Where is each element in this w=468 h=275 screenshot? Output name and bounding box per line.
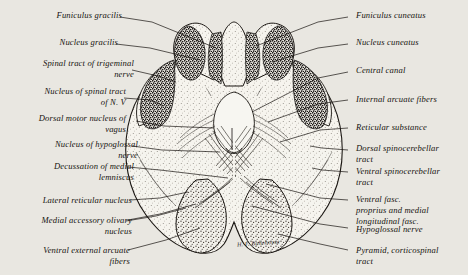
label-ventral-fasc-proprius: Ventral fasc. proprius and medial longit… [356,194,468,227]
label-dorsal-spinocerebellar-tract: Dorsal spinocerebellar tract [356,143,468,165]
label-nucleus-gracilis: Nucleus gracilis [0,37,118,48]
label-central-canal: Central canal [356,65,468,76]
label-internal-arcuate-fibers: Internal arcuate fibers [356,94,468,105]
label-lateral-reticular-nucleus: Lateral reticular nucleus [0,195,132,206]
label-nucleus-spinal-tract-n5: Nucleus of spinal tract of N. V [0,86,126,108]
label-ventral-spinocerebellar-tract: Ventral spinocerebellar tract [356,166,468,188]
label-reticular-substance: Reticular substance [356,122,468,133]
label-ventral-external-arcuate-fibers: Ventral external arcuate fibers [0,245,130,267]
label-funiculus-cuneatus: Funiculus cuneatus [356,10,468,21]
label-hypoglossal-nerve: Hypoglossal nerve [356,224,468,235]
label-spinal-tract-trigeminal-nerve: Spinal tract of trigeminal nerve [0,58,134,80]
label-medial-accessory-olivary-nucleus: Medial accessory olivary nucleus [0,215,132,237]
label-nucleus-cuneatus: Nucleus cuneatus [356,37,468,48]
label-dorsal-motor-nucleus-vagus: Dorsal motor nucleus of vagus [0,113,126,135]
label-funiculus-gracilis: Funiculus gracilis [0,10,122,21]
medulla-cross-section-figure: Funiculus gracilis Nucleus gracilis Spin… [0,0,468,275]
label-decussation-medial-lemniscus: Decussation of medial lemniscus [0,161,134,183]
label-nucleus-hypoglossal-nerve: Nucleus of hypoglossal nerve [0,139,138,161]
label-pyramid-corticospinal-tract: Pyramid, corticospinal tract [356,245,468,267]
